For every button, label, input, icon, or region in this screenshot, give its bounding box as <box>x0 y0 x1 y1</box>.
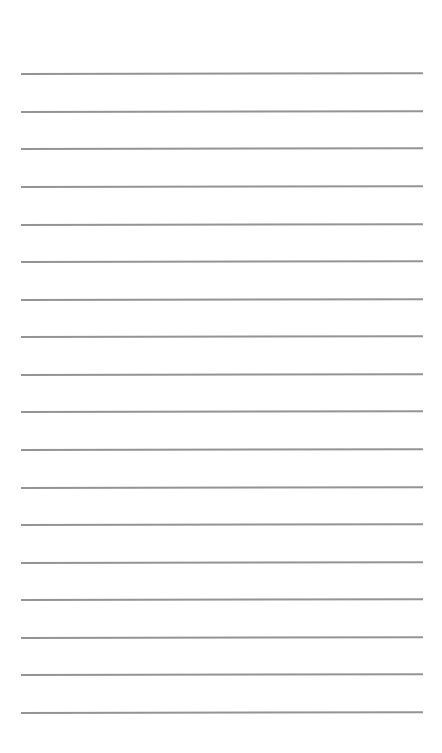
ruled-line <box>21 636 423 638</box>
ruled-line <box>21 523 423 525</box>
ruled-line <box>21 561 423 563</box>
ruled-line <box>21 72 423 74</box>
ruled-line <box>21 448 423 450</box>
ruled-line <box>21 711 423 713</box>
ruled-line <box>21 673 423 675</box>
ruled-line <box>21 598 423 600</box>
ruled-line <box>21 260 423 262</box>
ruled-line <box>21 147 423 149</box>
ruled-line <box>21 410 423 412</box>
lined-paper-page <box>0 0 442 753</box>
ruled-line <box>21 298 423 300</box>
ruled-line <box>21 185 423 187</box>
ruled-line <box>21 223 423 225</box>
ruled-line <box>21 335 423 337</box>
ruled-line <box>21 110 423 112</box>
ruled-line <box>21 486 423 488</box>
ruled-line <box>21 373 423 375</box>
